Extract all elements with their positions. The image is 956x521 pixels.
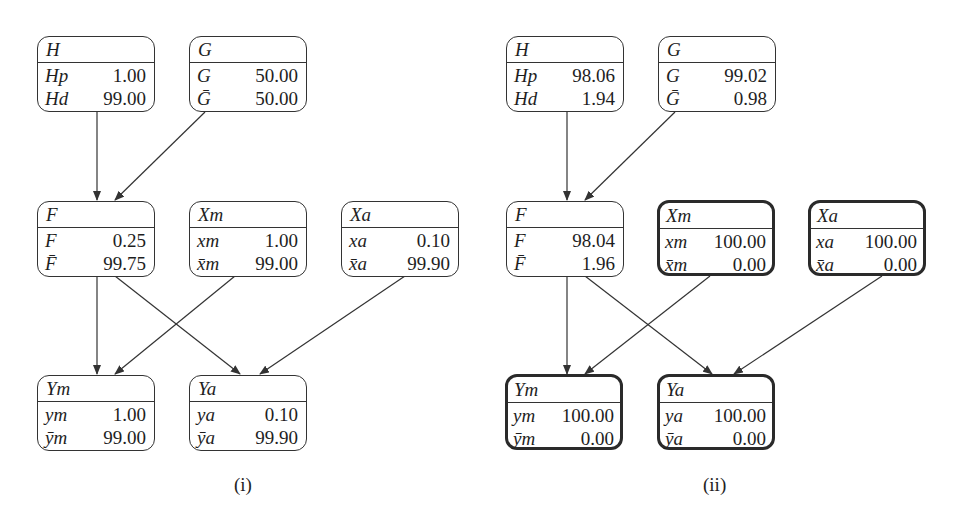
node-title: F [507,202,623,228]
node-ym: Ym ym1.00 ȳm99.00 [37,375,155,451]
node-title: Ym [38,376,154,402]
state-row: F98.04 [507,229,623,252]
node-title: G [190,37,306,63]
state-row: ya0.10 [190,403,306,426]
node-g-2: G G99.02 Ḡ0.98 [658,36,776,112]
state-row: x̄m0.00 [660,253,772,276]
edge-g-f [115,112,205,200]
node-xm: Xm xm1.00 x̄m99.00 [189,201,307,277]
node-xm-2-evidence: Xm xm100.00 x̄m0.00 [657,200,775,276]
state-row: Ḡ0.98 [659,87,775,110]
node-title: F [38,202,154,228]
state-row: x̄m99.00 [190,252,306,275]
edge-xa-ya [260,276,405,374]
state-row: x̄a0.00 [811,253,923,276]
node-ym-2-evidence: Ym ym100.00 ȳm0.00 [505,374,623,450]
node-title: Xm [660,203,772,229]
state-row: xm1.00 [190,229,306,252]
state-row: x̄a99.90 [342,252,458,275]
node-title: Xa [811,203,923,229]
node-title: Ym [508,377,620,403]
edge-xa-ya-2 [734,276,882,374]
state-row: G99.02 [659,64,775,87]
state-row: F̄1.96 [507,252,623,275]
node-g: G G50.00 Ḡ50.00 [189,36,307,112]
node-xa-2-evidence: Xa xa100.00 x̄a0.00 [808,200,926,276]
state-row: xa100.00 [811,230,923,253]
state-row: F0.25 [38,229,154,252]
state-row: Ḡ50.00 [190,87,306,110]
node-h-2: H Hp98.06 Hd1.94 [506,36,624,112]
node-f: F F0.25 F̄99.75 [37,201,155,277]
state-row: ȳm99.00 [38,426,154,449]
node-title: Xm [190,202,306,228]
node-title: Ya [190,376,306,402]
node-title: G [659,37,775,63]
node-ya-2-evidence: Ya ya100.00 ȳa0.00 [657,374,775,450]
node-ya: Ya ya0.10 ȳa99.90 [189,375,307,451]
node-title: H [507,37,623,63]
node-title: Xa [342,202,458,228]
node-f-2: F F98.04 F̄1.96 [506,201,624,277]
panel-caption: (i) [234,474,252,496]
node-title: Ya [660,377,772,403]
state-row: G50.00 [190,64,306,87]
state-row: ym100.00 [508,404,620,427]
state-row: Hd99.00 [38,87,154,110]
state-row: ȳa99.90 [190,426,306,449]
state-row: ȳm0.00 [508,427,620,450]
state-row: xa0.10 [342,229,458,252]
state-row: F̄99.75 [38,252,154,275]
state-row: xm100.00 [660,230,772,253]
node-title: H [38,37,154,63]
state-row: Hd1.94 [507,87,623,110]
edge-g-f-2 [585,112,675,200]
state-row: Hp98.06 [507,64,623,87]
node-xa: Xa xa0.10 x̄a99.90 [341,201,459,277]
panel-caption: (ii) [703,474,726,496]
state-row: ȳa0.00 [660,427,772,450]
state-row: ym1.00 [38,403,154,426]
node-h: H Hp1.00 Hd99.00 [37,36,155,112]
state-row: ya100.00 [660,404,772,427]
state-row: Hp1.00 [38,64,154,87]
